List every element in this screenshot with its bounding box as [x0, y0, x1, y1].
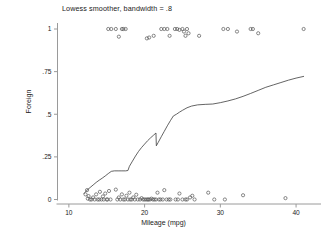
scatter-point — [95, 193, 98, 196]
y-tick-label: .25 — [42, 153, 51, 160]
scatter-point — [222, 27, 225, 30]
scatter-point — [207, 191, 210, 194]
scatter-point — [302, 27, 305, 30]
axes-group: 0.25.5.75110203040 — [42, 23, 321, 216]
scatter-point — [117, 35, 120, 38]
scatter-point — [257, 32, 260, 35]
scatter-point — [152, 34, 155, 37]
scatter-point — [104, 192, 107, 195]
y-tick-label: .5 — [46, 111, 52, 118]
scatter-point — [178, 192, 181, 195]
scatter-point — [213, 198, 216, 201]
scatter-point — [185, 27, 188, 30]
scatter-point — [223, 198, 226, 201]
scatter-point — [114, 27, 117, 30]
scatter-point — [107, 189, 110, 192]
scatter-point — [191, 194, 194, 197]
scatter-point — [135, 193, 138, 196]
scatter-point — [193, 198, 196, 201]
lowess-smoother-line — [84, 76, 304, 193]
scatter-points-group — [84, 27, 305, 201]
scatter-point — [163, 189, 166, 192]
scatter-point — [98, 190, 101, 193]
y-tick-label: 0 — [48, 196, 52, 203]
scatter-point — [184, 34, 187, 37]
scatter-point — [241, 194, 244, 197]
scatter-point — [198, 34, 201, 37]
x-tick-label: 30 — [217, 209, 225, 216]
x-tick-label: 10 — [65, 209, 73, 216]
scatter-point — [125, 194, 128, 197]
plot-area: 0.25.5.75110203040 — [0, 0, 327, 237]
scatter-point — [120, 193, 123, 196]
scatter-point — [156, 191, 159, 194]
scatter-point — [251, 27, 254, 30]
y-tick-label: .75 — [42, 68, 51, 75]
y-tick-label: 1 — [48, 25, 52, 32]
lowess-curve-group — [84, 76, 304, 193]
scatter-point — [101, 195, 104, 198]
x-tick-label: 20 — [141, 209, 149, 216]
scatter-point — [84, 193, 87, 196]
scatter-point — [161, 198, 164, 201]
scatter-point — [114, 188, 117, 191]
chart-canvas: Lowess smoother, bandwidth = .8 Foreign … — [0, 0, 327, 237]
scatter-point — [182, 30, 185, 33]
scatter-point — [226, 27, 229, 30]
scatter-point — [128, 191, 131, 194]
scatter-point — [168, 34, 171, 37]
scatter-point — [284, 197, 287, 200]
scatter-point — [124, 27, 127, 30]
scatter-point — [176, 198, 179, 201]
scatter-point — [187, 32, 190, 35]
scatter-point — [235, 30, 238, 33]
x-tick-label: 40 — [292, 209, 300, 216]
